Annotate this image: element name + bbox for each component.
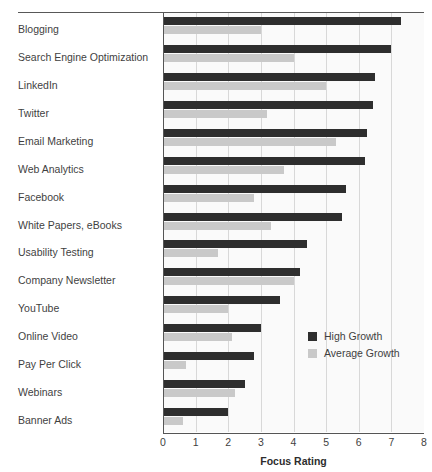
bar: [163, 240, 307, 248]
category-label: Twitter: [18, 108, 160, 119]
bar: [163, 157, 365, 165]
bar: [163, 361, 186, 369]
category-label: Company Newsletter: [18, 275, 160, 286]
bar: [163, 166, 284, 174]
category-label: Banner Ads: [18, 415, 160, 426]
category-label: Pay Per Click: [18, 359, 160, 370]
y-axis-line: [163, 13, 164, 433]
category-label: Blogging: [18, 24, 160, 35]
bar: [163, 408, 228, 416]
legend-label: Average Growth: [324, 347, 400, 359]
bar: [163, 45, 391, 53]
category-label: Usability Testing: [18, 247, 160, 258]
bar: [163, 296, 280, 304]
x-tick-label: 0: [153, 436, 173, 448]
bar: [163, 249, 218, 257]
legend-swatch-icon: [308, 349, 317, 358]
bar: [163, 389, 235, 397]
bar: [163, 82, 326, 90]
x-axis-line: [163, 433, 424, 434]
legend-item: High Growth: [308, 330, 400, 342]
bar: [163, 194, 254, 202]
category-label: Online Video: [18, 331, 160, 342]
bar: [163, 352, 254, 360]
bar: [163, 324, 261, 332]
category-axis-labels: BloggingSearch Engine OptimizationLinked…: [0, 13, 160, 432]
bar: [163, 17, 401, 25]
category-label: Search Engine Optimization: [18, 52, 160, 63]
bar: [163, 222, 271, 230]
x-tick-label: 7: [381, 436, 401, 448]
legend-swatch-icon: [308, 332, 317, 341]
bar: [163, 73, 375, 81]
x-tick-label: 4: [284, 436, 304, 448]
bar: [163, 268, 300, 276]
category-label: LinkedIn: [18, 80, 160, 91]
bar: [163, 305, 228, 313]
category-label: Email Marketing: [18, 136, 160, 147]
chart-legend: High GrowthAverage Growth: [308, 330, 400, 364]
x-tick-label: 2: [218, 436, 238, 448]
bar: [163, 277, 294, 285]
x-tick-label: 3: [251, 436, 271, 448]
x-tick-label: 8: [414, 436, 432, 448]
legend-item: Average Growth: [308, 347, 400, 359]
x-tick-label: 6: [349, 436, 369, 448]
x-tick-label: 1: [186, 436, 206, 448]
bar: [163, 185, 346, 193]
category-label: Webinars: [18, 387, 160, 398]
bar: [163, 101, 373, 109]
bar: [163, 333, 232, 341]
bar: [163, 54, 294, 62]
bar: [163, 417, 183, 425]
bar-chart: BloggingSearch Engine OptimizationLinked…: [0, 0, 432, 472]
gridline: [391, 13, 392, 432]
category-label: YouTube: [18, 303, 160, 314]
bar: [163, 26, 261, 34]
category-label: Web Analytics: [18, 164, 160, 175]
category-label: Facebook: [18, 192, 160, 203]
category-label: White Papers, eBooks: [18, 220, 160, 231]
plot-area: [163, 13, 424, 432]
bar: [163, 380, 245, 388]
bar: [163, 110, 267, 118]
bar: [163, 138, 336, 146]
legend-label: High Growth: [324, 330, 382, 342]
x-tick-label: 5: [316, 436, 336, 448]
x-axis-title: Focus Rating: [163, 455, 424, 467]
bar: [163, 213, 342, 221]
bar: [163, 129, 367, 137]
